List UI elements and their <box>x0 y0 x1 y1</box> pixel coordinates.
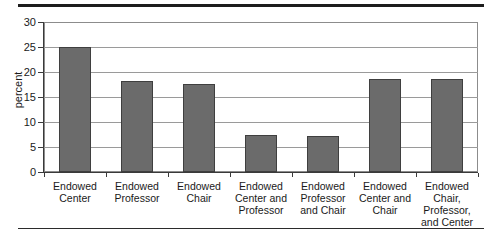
x-tick-mark <box>44 173 45 177</box>
x-category-label: EndowedCenter <box>44 180 106 204</box>
x-category-label: EndowedChair,Professor,and Center <box>416 180 478 228</box>
y-tick-label: 5 <box>2 142 36 152</box>
y-tick-label: 0 <box>2 167 36 177</box>
top-rule <box>18 4 484 7</box>
x-tick-mark <box>478 173 479 177</box>
bar <box>121 81 153 173</box>
x-tick-mark <box>230 173 231 177</box>
y-tick-mark <box>38 122 43 123</box>
bar <box>307 136 339 172</box>
y-tick-mark <box>38 22 43 23</box>
x-category-label-line: Professor <box>106 192 168 204</box>
x-category-label: EndowedChair <box>168 180 230 204</box>
x-category-label-line: Center and <box>230 192 292 204</box>
x-category-label-line: Endowed <box>44 180 106 192</box>
y-tick-mark <box>38 72 43 73</box>
x-category-label-line: Chair, <box>416 192 478 204</box>
x-category-label-line: and Center <box>416 216 478 228</box>
x-category-label: EndowedProfessorand Chair <box>292 180 354 216</box>
x-tick-mark <box>416 173 417 177</box>
x-category-label-line: Center and <box>354 192 416 204</box>
y-axis-title: percent <box>12 50 24 130</box>
y-tick-mark <box>38 172 43 173</box>
x-category-label-line: Professor, <box>416 204 478 216</box>
y-tick-label: 30 <box>2 17 36 27</box>
x-category-label-line: Center <box>44 192 106 204</box>
bar-chart-figure: 051015202530 percent EndowedCenterEndowe… <box>0 0 502 240</box>
x-tick-mark <box>168 173 169 177</box>
x-category-label: EndowedCenter andProfessor <box>230 180 292 216</box>
y-tick-mark <box>38 97 43 98</box>
x-category-label-line: Professor <box>292 192 354 204</box>
y-tick-mark <box>38 47 43 48</box>
x-category-label-line: Endowed <box>168 180 230 192</box>
bar <box>183 84 215 172</box>
x-category-label-line: Endowed <box>230 180 292 192</box>
bar <box>59 47 91 172</box>
bottom-rule <box>18 228 484 229</box>
x-category-label-line: Professor <box>230 204 292 216</box>
x-category-label: EndowedCenter andChair <box>354 180 416 216</box>
x-category-label-line: Chair <box>168 192 230 204</box>
x-tick-mark <box>106 173 107 177</box>
x-category-label-line: Endowed <box>292 180 354 192</box>
bar <box>245 135 277 172</box>
x-axis-line <box>44 172 478 173</box>
x-tick-mark <box>292 173 293 177</box>
y-tick-mark <box>38 147 43 148</box>
x-category-label-line: and Chair <box>292 204 354 216</box>
bar <box>369 79 401 172</box>
x-category-label-line: Endowed <box>106 180 168 192</box>
x-tick-mark <box>354 173 355 177</box>
x-category-label-line: Chair <box>354 204 416 216</box>
x-category-label: EndowedProfessor <box>106 180 168 204</box>
bar <box>431 79 463 173</box>
bar-series <box>44 22 478 172</box>
x-category-label-line: Endowed <box>354 180 416 192</box>
x-category-label-line: Endowed <box>416 180 478 192</box>
